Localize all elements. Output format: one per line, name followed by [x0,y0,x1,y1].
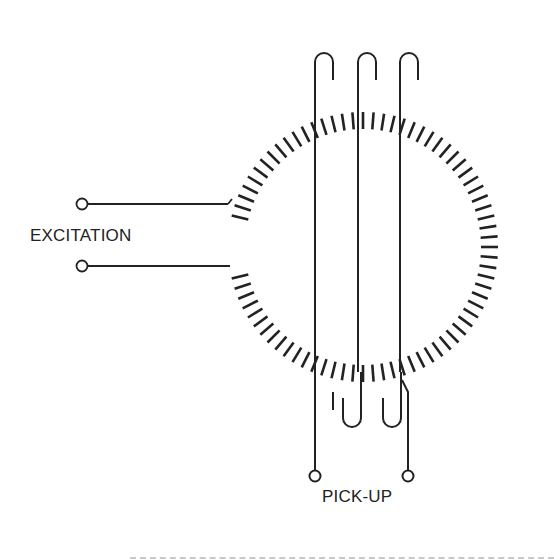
excitation-terminal-bottom [77,261,88,272]
fluxgate-diagram [0,0,554,560]
excitation-label: EXCITATION [30,226,132,246]
toroid-excitation-winding [232,112,498,382]
pickup-terminal-left [310,471,321,482]
pickup-label: PICK-UP [322,487,392,507]
pickup-terminal-right [403,471,414,482]
excitation-terminal-top [77,199,88,210]
divider [130,557,554,559]
